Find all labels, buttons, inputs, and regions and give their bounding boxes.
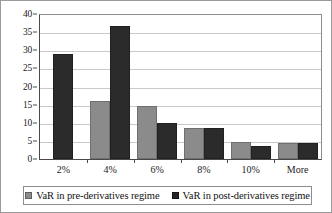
y-tick-label: 15 — [23, 100, 32, 110]
y-tick-mark — [33, 50, 37, 51]
y-tick-label: 10 — [23, 118, 32, 128]
y-tick-mark — [33, 32, 37, 33]
x-tick-label: 8% — [197, 164, 210, 175]
y-tick-label: 25 — [23, 63, 32, 73]
x-tick-label: More — [287, 164, 309, 175]
bar-group — [181, 14, 228, 159]
chart-legend: VaR in pre-derivatives regime VaR in pos… — [23, 186, 312, 205]
y-tick-label: 0 — [27, 154, 32, 164]
bar — [110, 26, 130, 159]
x-tick-label: 10% — [242, 164, 260, 175]
y-tick-label: 20 — [23, 82, 32, 92]
legend-label-pre: VaR in pre-derivatives regime — [36, 190, 159, 201]
legend-swatch-icon-pre — [25, 192, 32, 199]
bar — [251, 146, 271, 159]
bar — [157, 123, 177, 159]
bar — [231, 142, 251, 159]
bar-group — [87, 14, 134, 159]
chart-figure: 0510152025303540 2%4%6%8%10%More VaR in … — [0, 0, 332, 213]
y-tick-mark — [33, 86, 37, 87]
y-axis: 0510152025303540 — [1, 14, 37, 160]
x-tick-mark — [227, 159, 228, 163]
bar — [278, 143, 298, 159]
y-tick-mark — [33, 68, 37, 69]
x-tick-label: 2% — [57, 164, 70, 175]
bar — [53, 54, 73, 159]
legend-item-post-derivatives: VaR in post-derivatives regime — [172, 190, 310, 201]
y-tick-mark — [33, 104, 37, 105]
legend-item-pre-derivatives: VaR in pre-derivatives regime — [25, 190, 159, 201]
x-tick-mark — [134, 159, 135, 163]
bar — [184, 128, 204, 159]
y-tick-mark — [33, 159, 37, 160]
bar-group — [40, 14, 87, 159]
legend-label-post: VaR in post-derivatives regime — [183, 190, 310, 201]
y-tick-label: 5 — [27, 136, 32, 146]
bars-layer — [40, 14, 321, 159]
x-tick-label: 6% — [150, 164, 163, 175]
bar — [90, 101, 110, 159]
bar — [298, 143, 318, 159]
y-tick-mark — [33, 122, 37, 123]
bar-group — [274, 14, 321, 159]
x-tick-mark — [181, 159, 182, 163]
x-tick-mark — [87, 159, 88, 163]
y-tick-mark — [33, 140, 37, 141]
y-tick-label: 35 — [23, 27, 32, 37]
bar-group — [134, 14, 181, 159]
bar — [204, 128, 224, 159]
bar-group — [227, 14, 274, 159]
legend-swatch-icon-post — [172, 192, 179, 199]
x-tick-mark — [274, 159, 275, 163]
bar — [137, 106, 157, 159]
x-tick-label: 4% — [104, 164, 117, 175]
y-tick-label: 30 — [23, 45, 32, 55]
y-tick-mark — [33, 14, 37, 15]
x-axis: 2%4%6%8%10%More — [40, 162, 321, 180]
y-tick-label: 40 — [23, 9, 32, 19]
